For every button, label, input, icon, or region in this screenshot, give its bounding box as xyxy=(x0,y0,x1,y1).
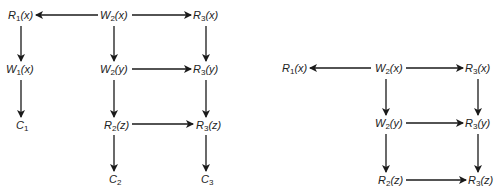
node-symbol: C xyxy=(16,119,24,131)
node-symbol: W xyxy=(100,63,110,75)
node-symbol: R xyxy=(465,62,473,74)
node-argument: (x) xyxy=(205,9,218,21)
graph-node: R3(x) xyxy=(465,62,490,74)
graph-node: W2(x) xyxy=(375,62,403,74)
diagram-canvas xyxy=(0,0,498,196)
graph-node: R1(x) xyxy=(282,62,307,74)
node-argument: (z) xyxy=(208,119,221,131)
node-symbol: R xyxy=(378,174,386,186)
graph-node: W1(x) xyxy=(6,63,34,75)
node-symbol: R xyxy=(104,119,112,131)
node-argument: (z) xyxy=(480,174,493,186)
node-symbol: W xyxy=(375,117,385,129)
node-argument: (y) xyxy=(390,117,403,129)
node-symbol: R xyxy=(196,119,204,131)
node-argument: (y) xyxy=(205,63,218,75)
node-argument: (x) xyxy=(390,62,403,74)
node-subscript: 2 xyxy=(117,178,121,187)
graph-node: C1 xyxy=(16,119,28,131)
graph-node: R2(z) xyxy=(378,174,403,186)
node-argument: (x) xyxy=(21,63,34,75)
node-argument: (y) xyxy=(477,117,490,129)
node-symbol: W xyxy=(100,9,110,21)
node-argument: (z) xyxy=(116,119,129,131)
node-symbol: R xyxy=(465,117,473,129)
graph-node: R3(y) xyxy=(465,117,490,129)
graph-node: W2(x) xyxy=(100,9,128,21)
graph-node: C2 xyxy=(109,173,121,185)
left-graph-edges xyxy=(21,15,206,171)
edges-layer xyxy=(21,15,478,180)
graph-node: W2(y) xyxy=(375,117,403,129)
node-argument: (z) xyxy=(390,174,403,186)
graph-node: R3(x) xyxy=(193,9,218,21)
graph-node: R1(x) xyxy=(8,9,33,21)
node-argument: (x) xyxy=(477,62,490,74)
node-subscript: 1 xyxy=(24,124,28,133)
graph-node: C3 xyxy=(201,173,213,185)
node-argument: (y) xyxy=(115,63,128,75)
graph-node: R2(z) xyxy=(104,119,129,131)
node-symbol: R xyxy=(193,63,201,75)
node-subscript: 3 xyxy=(209,178,213,187)
graph-node: R3(z) xyxy=(196,119,221,131)
node-argument: (x) xyxy=(115,9,128,21)
node-symbol: R xyxy=(282,62,290,74)
graph-node: R3(z) xyxy=(468,174,493,186)
node-symbol: R xyxy=(193,9,201,21)
graph-node: R3(y) xyxy=(193,63,218,75)
node-symbol: R xyxy=(8,9,16,21)
graph-node: W2(y) xyxy=(100,63,128,75)
node-symbol: R xyxy=(468,174,476,186)
node-symbol: W xyxy=(375,62,385,74)
node-symbol: C xyxy=(201,173,209,185)
node-argument: (x) xyxy=(20,9,33,21)
node-argument: (x) xyxy=(294,62,307,74)
node-symbol: W xyxy=(6,63,16,75)
node-symbol: C xyxy=(109,173,117,185)
